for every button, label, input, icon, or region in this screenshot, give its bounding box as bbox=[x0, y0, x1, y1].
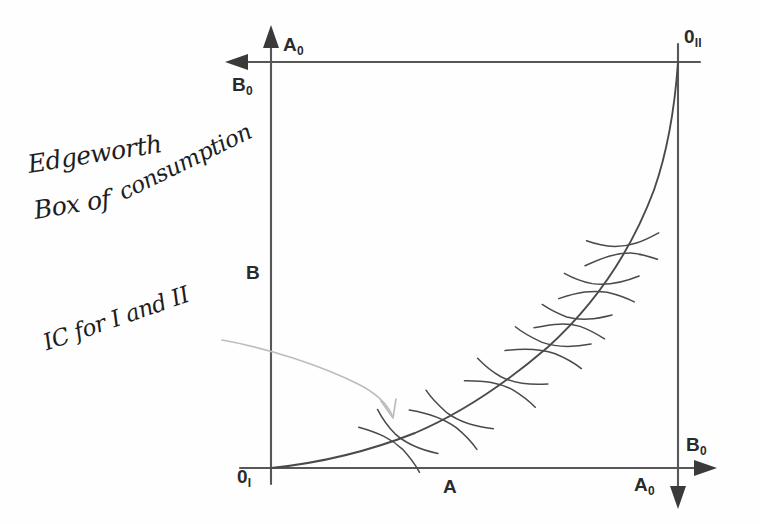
ic-consumer-one-4 bbox=[505, 320, 581, 398]
ic-consumer-one-3 bbox=[464, 356, 535, 431]
label-B0-right: B0 bbox=[686, 434, 707, 456]
label-B0-topleft-text: B bbox=[232, 74, 246, 95]
box-frame bbox=[232, 32, 710, 502]
axis-arrowheads bbox=[225, 25, 717, 509]
ic-consumer-one-5 bbox=[534, 298, 605, 369]
arrowhead-left-icon bbox=[225, 54, 248, 70]
label-B0-topleft: B0 bbox=[232, 74, 253, 96]
ic-consumer-two-4 bbox=[515, 297, 591, 375]
label-A0-top-text: A bbox=[283, 34, 297, 55]
ic-consumer-two-2 bbox=[426, 372, 493, 447]
contract-curve bbox=[271, 62, 678, 468]
label-A0-top: A0 bbox=[283, 34, 304, 56]
label-A0-top-sub: 0 bbox=[297, 44, 304, 58]
indifference-curve-pairs bbox=[355, 203, 669, 485]
ic-consumer-one-2 bbox=[409, 392, 477, 467]
ic-pointer-arrow bbox=[222, 340, 396, 418]
ic-consumer-two-3 bbox=[478, 334, 548, 408]
label-A0-bottomright-sub: 0 bbox=[648, 484, 655, 498]
label-A0-bottomright: A0 bbox=[634, 474, 655, 496]
label-A-bottom-axis: A bbox=[443, 476, 457, 498]
ic-consumer-two-5 bbox=[542, 275, 612, 345]
label-origin-two-sub: II bbox=[695, 36, 702, 50]
diagram-canvas: A0 B0 0II B 0I A A0 B0 Edgeworth Box of … bbox=[0, 0, 760, 524]
ic-pair-3 bbox=[458, 334, 555, 432]
arrowhead-up-icon bbox=[263, 25, 279, 48]
edgeworth-box-figure bbox=[0, 0, 760, 524]
label-origin-one: 0I bbox=[237, 466, 251, 488]
arrowhead-right-icon bbox=[694, 460, 717, 476]
ic-pair-1 bbox=[355, 397, 441, 485]
label-A0-bottomright-text: A bbox=[634, 474, 648, 495]
label-B0-topleft-sub: 0 bbox=[246, 84, 253, 98]
label-origin-two: 0II bbox=[684, 26, 702, 48]
label-B0-right-sub: 0 bbox=[700, 444, 707, 458]
label-origin-one-text: 0 bbox=[237, 466, 248, 487]
label-origin-two-text: 0 bbox=[684, 26, 695, 47]
label-B-left-axis: B bbox=[246, 262, 260, 284]
ic-pointer-arrow-shaft bbox=[222, 340, 392, 415]
ic-consumer-two-6 bbox=[564, 238, 639, 311]
arrowhead-down-icon bbox=[670, 486, 686, 509]
ic-pair-2 bbox=[405, 372, 499, 467]
label-origin-one-sub: I bbox=[248, 476, 252, 490]
label-B0-right-text: B bbox=[686, 434, 700, 455]
